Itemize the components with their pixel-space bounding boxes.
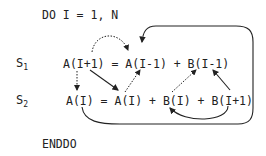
dep-arrow-solid-1 [90, 70, 118, 90]
dep-arrow-solid-2 [213, 70, 230, 90]
dependence-graph [0, 0, 266, 156]
dep-arrow-dotted-2 [125, 70, 140, 92]
dep-arrow-arc-dotted [92, 36, 128, 52]
dep-arrow-dotted-3 [172, 70, 196, 92]
dep-arrow-arc-below [170, 106, 228, 119]
